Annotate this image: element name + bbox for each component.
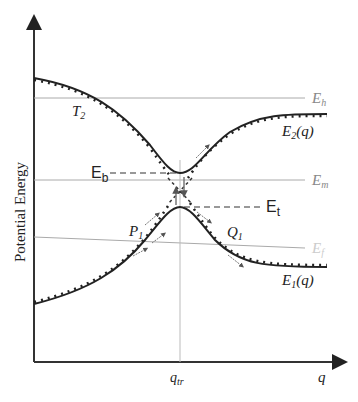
potential-energy-diagram: Potential Energy q qtr Eh Em Ef E2(q) E1… — [0, 0, 358, 402]
upper-curve-label: E2(q) — [281, 123, 314, 141]
qtr-tick-label: qtr — [170, 370, 184, 387]
point-q1-label: Q1 — [227, 224, 243, 242]
y-axis-label: Potential Energy — [12, 161, 28, 262]
et-label: Et — [266, 198, 281, 219]
point-p1-label: P1 — [128, 223, 143, 241]
level-eh-label: Eh — [311, 90, 326, 108]
x-axis-label: q — [318, 369, 326, 385]
point-t2-label: T2 — [72, 103, 85, 121]
eb-label: Eb — [91, 164, 109, 185]
lower-curve-label: E1(q) — [281, 272, 314, 290]
level-em-label: Em — [311, 172, 328, 190]
level-ef-label: Ef — [311, 240, 325, 258]
level-ef-line — [34, 237, 305, 248]
